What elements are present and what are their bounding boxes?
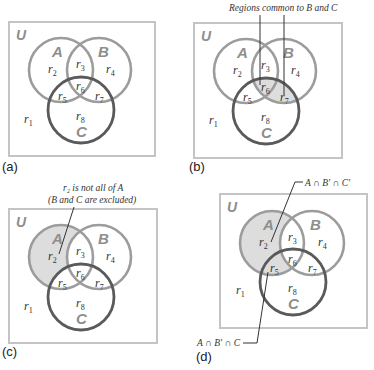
panel-label-b: (b) [189,159,205,174]
set-c-label: C [288,295,300,312]
set-a-label: A [236,44,248,61]
universe-label: U [16,27,27,43]
set-b-label: B [98,43,109,60]
set-b-label: B [310,216,321,233]
region-r7: r7 [95,89,104,105]
callout-r2-line2: (B and C are excluded) [48,195,136,206]
set-a-label: A [262,216,274,233]
panel-label-a: (a) [2,159,18,174]
region-r3: r3 [76,57,85,73]
region-r4: r4 [291,63,300,79]
panel-label-d: (d) [196,349,212,364]
set-a-label: A [51,230,63,247]
set-c-label: C [261,124,273,141]
region-r4: r4 [318,235,327,251]
region-r1: r1 [24,112,33,128]
region-r8: r8 [261,110,270,126]
set-b-label: B [98,230,109,247]
region-r1: r1 [24,299,33,315]
set-c-label: C [76,123,88,140]
region-r4: r4 [106,62,115,78]
venn-diagram-figure: U A B C r1 r2 r3 r4 r5 r6 r7 r8 (a) U A … [0,0,374,370]
region-r1: r1 [209,113,218,129]
universe-label: U [227,199,238,215]
panel-a: U A B C r1 r2 r3 r4 r5 r6 r7 r8 (a) [2,22,155,174]
universe-label: U [201,28,212,44]
region-r1: r1 [236,283,245,299]
region-r5: r5 [58,89,67,105]
region-r3: r3 [261,58,270,74]
region-r8: r8 [288,281,297,297]
set-b-label: B [283,44,294,61]
callout-r2-line1: r₂ is not all of A [63,183,124,193]
region-r8: r8 [76,296,85,312]
callout-a-notb-c: A ∩ B′ ∩ C [196,338,241,348]
callout-leader-bottom [243,272,268,343]
region-r2: r2 [48,62,57,78]
set-c-label: C [76,310,88,327]
callout-a-notb-notc: A ∩ B′ ∩ C′ [304,178,351,188]
callout-regions-common-b-c: Regions common to B and C [228,3,338,13]
panel-label-c: (c) [2,344,17,359]
panel-b: U A B C r1 r2 r3 r4 r5 r6 r7 r8 Regions … [189,3,342,174]
panel-c: U A B C r1 r2 r3 r4 r5 r6 r7 r8 r₂ is no… [2,183,157,359]
region-r2: r2 [233,63,242,79]
region-r6: r6 [76,79,85,95]
region-r7: r7 [308,261,317,277]
set-a-label: A [51,43,63,60]
region-r7: r7 [95,276,104,292]
universe-label: U [16,214,27,230]
panel-d: U A B C r1 r2 r3 r4 r5 r6 r7 r8 A ∩ B′ ∩… [196,178,367,364]
region-r8: r8 [76,109,85,125]
region-r4: r4 [106,249,115,265]
region-r5: r5 [243,90,252,106]
